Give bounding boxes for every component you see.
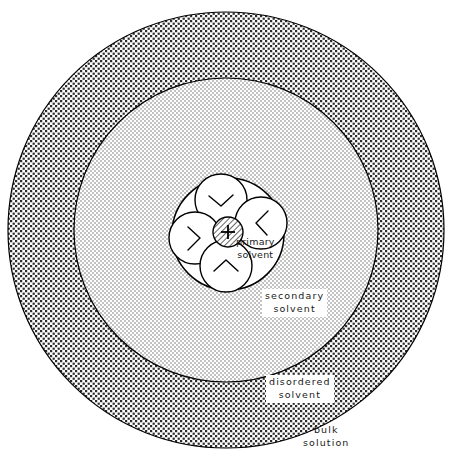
- solvent-molecule-body: [200, 240, 252, 292]
- solvent-molecule-body: [235, 197, 287, 249]
- solvent-molecule-bottom: [200, 240, 252, 292]
- central-cation: [213, 217, 243, 247]
- solvation-shell-diagram: primary solvent secondary solvent disord…: [0, 0, 459, 462]
- solvent-molecule-right: [235, 197, 287, 249]
- diagram-canvas: [0, 0, 459, 462]
